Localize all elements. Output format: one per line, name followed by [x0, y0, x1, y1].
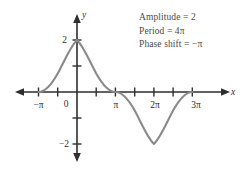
x-tick-label-neg-pi: −π	[33, 100, 43, 110]
x-tick-label-three-pi: 3π	[191, 100, 201, 110]
x-tick-label-pi: π	[114, 100, 119, 110]
annotation-block: Amplitude = 2 Period = 4π Phase shift = …	[139, 11, 243, 52]
y-axis	[73, 14, 81, 162]
y-axis-arrow-up-icon	[73, 14, 81, 23]
x-axis-label: x	[230, 87, 236, 97]
x-tick-label-zero: 0	[64, 99, 69, 109]
y-axis-label: y	[81, 10, 87, 20]
annotation-period: Period = 4π	[139, 25, 243, 39]
x-axis-arrow-left-icon	[15, 88, 24, 96]
annotation-amplitude: Amplitude = 2	[139, 11, 243, 25]
annotation-phase-shift: Phase shift = −π	[139, 38, 243, 52]
y-axis-arrow-down-icon	[73, 153, 81, 162]
x-tick-label-two-pi: 2π	[150, 100, 160, 110]
x-axis-arrow-right-icon	[221, 88, 230, 96]
y-tick-label-neg-2: −2	[59, 139, 69, 149]
y-tick-label-2: 2	[62, 35, 67, 45]
